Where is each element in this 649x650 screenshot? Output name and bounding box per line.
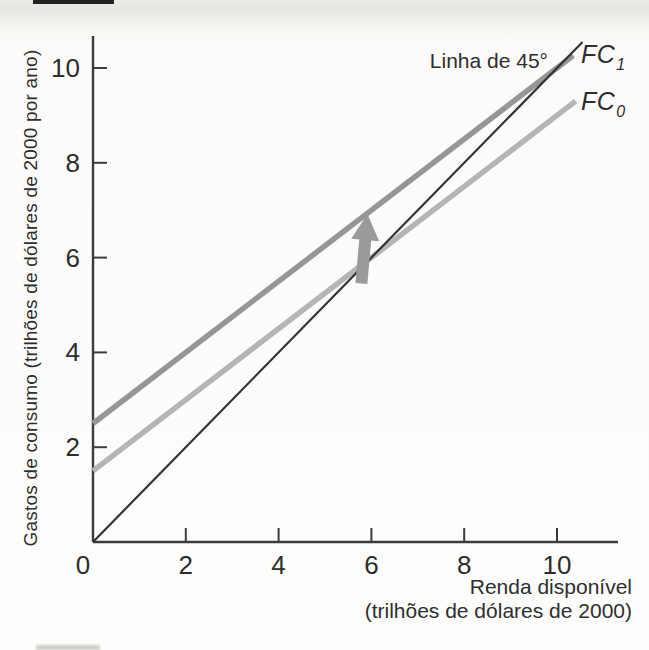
plot-area: 2468102468100: [0, 0, 649, 650]
origin-tick-label: 0: [76, 550, 90, 580]
y-tick-label: 2: [66, 432, 80, 462]
y-axis-title: Gastos de consumo (trilhões de dólares d…: [20, 50, 42, 547]
fc1-label-subscript: 1: [616, 56, 625, 73]
fc1-label-base: FC: [581, 40, 615, 68]
line-45-label: Linha de 45°: [418, 49, 548, 73]
x-axis-title-line1: Renda disponível: [365, 575, 632, 599]
fc0-label-base: FC: [581, 87, 615, 115]
x-axis-title: Renda disponível (trilhões de dólares de…: [365, 575, 632, 623]
x-tick-label: 2: [179, 550, 193, 580]
y-tick-label: 8: [66, 148, 80, 178]
x-axis-title-line2: (trilhões de dólares de 2000): [365, 599, 632, 623]
y-tick-label: 4: [66, 337, 80, 367]
cropped-caption-artifact: [36, 645, 100, 650]
series-line-linha-45-graus: [93, 42, 583, 542]
fc0-series-label: FC0: [581, 87, 625, 116]
x-tick-label: 4: [271, 550, 285, 580]
fc1-series-label: FC1: [581, 40, 625, 69]
y-tick-label: 6: [66, 243, 80, 273]
y-tick-label: 10: [51, 53, 80, 83]
series-line-FC1: [93, 56, 573, 424]
series-line-FC0: [93, 101, 576, 471]
consumption-function-figure: 2468102468100 Gastos de consumo (trilhõe…: [0, 0, 649, 650]
fc0-label-subscript: 0: [616, 103, 625, 120]
